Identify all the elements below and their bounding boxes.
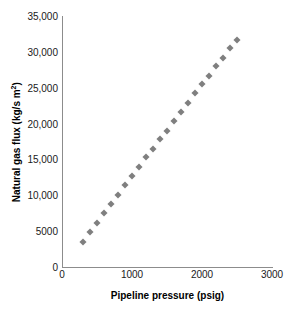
- plot-area: [62, 16, 272, 267]
- y-tick-label: 15,000: [27, 154, 58, 165]
- data-point: [135, 163, 142, 170]
- y-axis-tick-labels: 0500010,00015,00020,00025,00030,00035,00…: [0, 0, 58, 312]
- data-point: [142, 154, 149, 161]
- y-tick-label: 5000: [36, 226, 58, 237]
- x-axis-title: Pipeline pressure (psig): [62, 290, 273, 301]
- data-point: [128, 172, 135, 179]
- data-point: [226, 45, 233, 52]
- data-point: [170, 118, 177, 125]
- data-point: [107, 200, 114, 207]
- y-tick-label: 30,000: [27, 46, 58, 57]
- x-tick-label: 2000: [191, 269, 213, 280]
- data-point: [100, 210, 107, 217]
- y-axis-title: Natural gas flux (kg/s m2): [10, 22, 22, 262]
- y-tick-label: 10,000: [27, 190, 58, 201]
- y-tick-label: 25,000: [27, 82, 58, 93]
- data-point: [121, 182, 128, 189]
- data-point: [198, 81, 205, 88]
- x-tick-label: 1000: [121, 269, 143, 280]
- y-axis-title-tail: ): [11, 82, 22, 85]
- data-point: [212, 63, 219, 70]
- data-point: [86, 228, 93, 235]
- data-point: [149, 145, 156, 152]
- y-axis-title-base: Natural gas flux (kg/s m: [11, 89, 22, 202]
- data-point: [184, 99, 191, 106]
- y-axis-title-superscript: 2: [10, 85, 17, 89]
- y-tick-label: 20,000: [27, 118, 58, 129]
- x-tick-label: 0: [59, 269, 65, 280]
- y-tick-label: 0: [52, 262, 58, 273]
- y-tick-label: 35,000: [27, 11, 58, 22]
- data-point: [93, 219, 100, 226]
- data-point: [163, 127, 170, 134]
- data-point: [114, 191, 121, 198]
- data-point: [205, 72, 212, 79]
- data-point: [191, 90, 198, 97]
- data-point: [177, 109, 184, 116]
- data-point: [233, 36, 240, 43]
- chart-figure: 0500010,00015,00020,00025,00030,00035,00…: [0, 0, 293, 312]
- data-point: [79, 238, 86, 245]
- data-point: [219, 54, 226, 61]
- x-tick-label: 3000: [261, 269, 283, 280]
- x-axis-line: [62, 267, 273, 268]
- data-point: [156, 136, 163, 143]
